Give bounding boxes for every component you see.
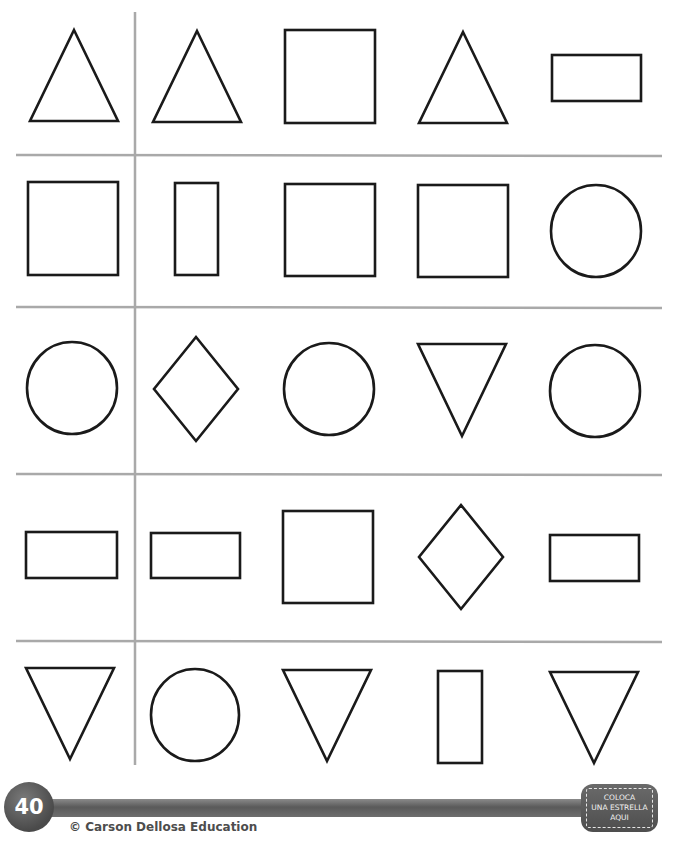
inverted-triangle-shape <box>550 672 638 763</box>
circle-shape <box>151 669 239 761</box>
rectangle-shape <box>151 533 240 578</box>
star-box-line: COLOCA <box>587 793 652 803</box>
circle-shape <box>284 343 374 435</box>
triangle-shape <box>153 31 241 122</box>
diamond-shape <box>154 337 238 441</box>
rectangle-shape <box>175 183 218 275</box>
inverted-triangle-shape <box>26 668 114 759</box>
triangle-shape <box>30 30 118 121</box>
rectangle-shape <box>418 185 508 277</box>
rectangle-shape <box>26 532 117 578</box>
triangle-shape <box>419 32 507 123</box>
rectangle-shape <box>283 511 373 603</box>
rectangle-shape <box>438 671 482 763</box>
rectangle-shape <box>285 30 375 123</box>
star-sticker-label: COLOCA UNA ESTRELLA AQUI <box>586 788 653 828</box>
row-divider <box>16 641 662 642</box>
rectangle-shape <box>285 184 375 276</box>
star-sticker-box: COLOCA UNA ESTRELLA AQUI <box>581 784 658 832</box>
worksheet-page: 40 © Carson Dellosa Education COLOCA UNA… <box>0 0 678 857</box>
rectangle-shape <box>28 182 118 275</box>
row-divider <box>16 474 662 475</box>
inverted-triangle-shape <box>418 344 506 436</box>
diamond-shape <box>419 505 503 609</box>
rectangle-shape <box>550 535 639 581</box>
footer-bar <box>40 799 600 817</box>
copyright-text: © Carson Dellosa Education <box>69 820 257 834</box>
page-number-badge: 40 <box>4 782 54 832</box>
inverted-triangle-shape <box>283 670 371 761</box>
circle-shape <box>550 345 640 437</box>
star-box-line: UNA ESTRELLA <box>587 803 652 813</box>
row-divider <box>16 307 662 308</box>
row-divider <box>16 155 662 156</box>
shape-grid <box>0 0 678 857</box>
circle-shape <box>27 342 117 434</box>
rectangle-shape <box>552 55 641 101</box>
page-number: 40 <box>14 795 43 819</box>
circle-shape <box>551 185 641 277</box>
star-box-line: AQUI <box>587 813 652 823</box>
